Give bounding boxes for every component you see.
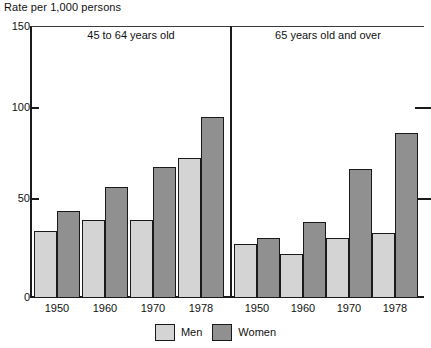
bar-45-to-64-years-old-1978-men (178, 158, 201, 298)
bar-65-years-old-and-over-1950-women (257, 238, 280, 298)
bar-45-to-64-years-old-1970-women (153, 167, 176, 298)
legend-item-men: Men (155, 324, 202, 341)
bar-45-to-64-years-old-1950-women (57, 211, 80, 298)
bar-65-years-old-and-over-1960-women (303, 222, 326, 298)
y-axis-title: Rate per 1,000 persons (4, 1, 121, 13)
bar-45-to-64-years-old-1970-men (130, 220, 153, 298)
y-tick-label-150: 150 (4, 21, 30, 32)
bar-65-years-old-and-over-1950-men (234, 244, 257, 298)
bar-65-years-old-and-over-1960-men (280, 254, 303, 298)
x-tick-label-left-1978: 1978 (170, 302, 232, 314)
bars-layer (30, 26, 424, 298)
bar-65-years-old-and-over-1978-women (395, 133, 418, 298)
legend-label-women: Women (238, 327, 276, 338)
legend-swatch-men (155, 324, 175, 341)
bar-chart: Rate per 1,000 persons 150 100 50 0 45 t… (0, 0, 431, 348)
legend-label-men: Men (181, 327, 202, 338)
legend: MenWomen (0, 324, 431, 341)
y-tick-label-100: 100 (4, 102, 30, 113)
bar-45-to-64-years-old-1960-women (105, 187, 128, 298)
y-tick-label-50: 50 (4, 193, 30, 204)
bar-65-years-old-and-over-1978-men (372, 233, 395, 298)
bar-45-to-64-years-old-1960-men (82, 220, 105, 298)
bar-65-years-old-and-over-1970-women (349, 169, 372, 298)
bar-45-to-64-years-old-1950-men (34, 231, 57, 298)
bar-65-years-old-and-over-1970-men (326, 238, 349, 298)
legend-item-women: Women (212, 324, 276, 341)
bar-45-to-64-years-old-1978-women (201, 117, 224, 298)
x-tick-label-right-1978: 1978 (364, 302, 426, 314)
legend-swatch-women (212, 324, 232, 341)
